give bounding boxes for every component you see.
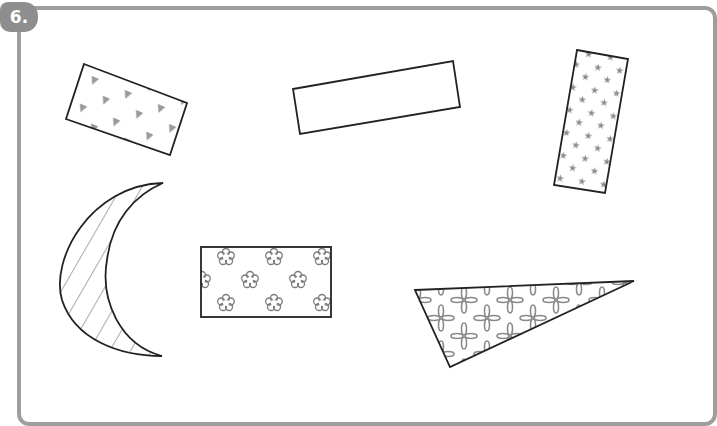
shape-triangles-rectangle <box>66 64 187 155</box>
shape-crescent <box>60 183 163 356</box>
shape-petals-triangle <box>415 281 634 367</box>
shape-plain-rectangle <box>293 61 460 134</box>
shape-stars-rectangle <box>554 50 628 193</box>
shape-flowers-rectangle <box>201 247 331 317</box>
